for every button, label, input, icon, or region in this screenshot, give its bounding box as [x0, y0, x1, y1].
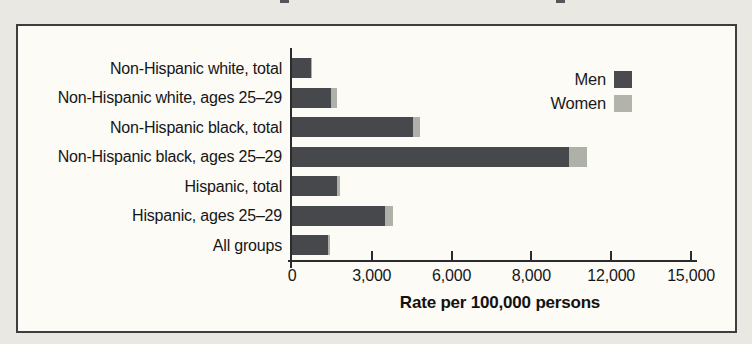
- x-tick-label: 8,000: [496, 267, 566, 285]
- bar-segment-men: [292, 117, 413, 137]
- x-axis-line: [288, 260, 697, 262]
- bar-segment-women: [569, 147, 588, 167]
- x-tick-label: 6,000: [417, 267, 487, 285]
- scanned-chart-page: Non-Hispanic white, totalNon-Hispanic wh…: [0, 0, 752, 344]
- bar-segment-men: [292, 206, 385, 226]
- category-label: Non-Hispanic white, ages 25–29: [18, 87, 282, 108]
- category-label: Non-Hispanic white, total: [18, 58, 282, 79]
- x-axis-title: Rate per 100,000 persons: [300, 293, 700, 313]
- x-tick-label: 0: [257, 267, 327, 285]
- legend-swatch-women: [614, 95, 632, 112]
- bar-segment-women: [413, 117, 420, 137]
- category-label: Non-Hispanic black, total: [18, 117, 282, 138]
- bar-row: [292, 88, 337, 108]
- bar-segment-women: [331, 88, 337, 108]
- bar-segment-men: [292, 176, 337, 196]
- legend-label-women: Women: [550, 94, 606, 113]
- bar-row: [292, 147, 587, 167]
- bar-segment-men: [292, 147, 569, 167]
- bar-segment-women: [385, 206, 393, 226]
- y-axis-line: [290, 48, 292, 268]
- legend-row-women: Women: [500, 94, 632, 112]
- bar-row: [292, 58, 312, 78]
- legend-row-men: Men: [500, 70, 632, 88]
- x-tick-label: 3,000: [337, 267, 407, 285]
- bar-segment-women: [311, 58, 313, 78]
- bar-row: [292, 235, 330, 255]
- bar-row: [292, 176, 340, 196]
- x-tick-mark: [610, 251, 612, 260]
- category-label: Hispanic, total: [18, 176, 282, 197]
- bar-segment-women: [337, 176, 340, 196]
- x-tick-mark: [451, 251, 453, 260]
- x-tick-mark: [690, 251, 692, 260]
- x-tick-mark: [371, 251, 373, 260]
- category-label: Hispanic, ages 25–29: [18, 205, 282, 226]
- x-tick-label: 15,000: [656, 267, 726, 285]
- legend-swatch-men: [614, 71, 632, 88]
- bar-segment-men: [292, 235, 328, 255]
- bar-chart: Non-Hispanic white, totalNon-Hispanic wh…: [0, 0, 752, 344]
- bar-segment-men: [292, 88, 331, 108]
- x-tick-mark: [530, 251, 532, 260]
- bar-row: [292, 206, 393, 226]
- category-label: Non-Hispanic black, ages 25–29: [18, 146, 282, 167]
- x-tick-label: 12,000: [576, 267, 646, 285]
- bar-segment-women: [328, 235, 330, 255]
- bar-segment-men: [292, 58, 311, 78]
- legend: Men Women: [500, 70, 632, 112]
- legend-label-men: Men: [575, 70, 607, 89]
- bar-row: [292, 117, 420, 137]
- category-label: All groups: [18, 235, 282, 256]
